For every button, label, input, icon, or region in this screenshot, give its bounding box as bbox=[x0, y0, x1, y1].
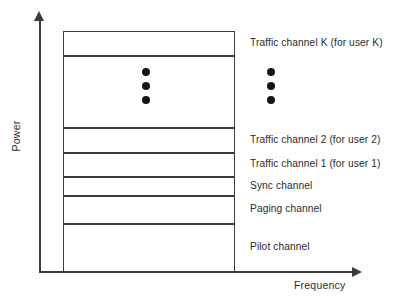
channel-label: Traffic channel 1 (for user 1) bbox=[250, 159, 380, 169]
channel-label: Sync channel bbox=[250, 181, 312, 191]
power-axis-line bbox=[39, 20, 41, 272]
frequency-axis-title: Frequency bbox=[294, 279, 345, 291]
channel-band bbox=[63, 128, 235, 153]
channel-band bbox=[63, 31, 235, 56]
channel-band bbox=[63, 196, 235, 224]
frequency-axis-arrow-icon bbox=[352, 267, 362, 277]
ellipsis-dot-icon bbox=[267, 82, 275, 90]
channel-label: Paging channel bbox=[250, 204, 322, 214]
channel-label: Traffic channel K (for user K) bbox=[250, 38, 383, 48]
channel-stack bbox=[63, 31, 235, 272]
channel-band bbox=[63, 177, 235, 196]
channel-label: Traffic channel 2 (for user 2) bbox=[250, 135, 380, 145]
power-axis-arrow-icon bbox=[34, 11, 44, 21]
channel-label: Pilot channel bbox=[250, 242, 310, 252]
channel-band bbox=[63, 153, 235, 177]
channel-band bbox=[63, 224, 235, 272]
channel-band bbox=[63, 56, 235, 128]
ellipsis-dot-icon bbox=[142, 96, 150, 104]
ellipsis-dot-icon bbox=[142, 82, 150, 90]
power-axis-title: Power bbox=[10, 106, 22, 166]
ellipsis-dot-icon bbox=[142, 68, 150, 76]
ellipsis-dot-icon bbox=[267, 68, 275, 76]
cdma-channel-diagram: Power Frequency Traffic channel K (for u… bbox=[0, 0, 411, 305]
ellipsis-dot-icon bbox=[267, 96, 275, 104]
